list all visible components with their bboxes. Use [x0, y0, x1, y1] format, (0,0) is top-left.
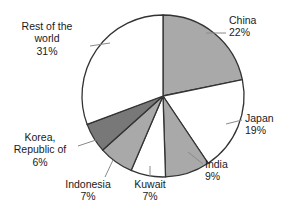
- pie-label-korea-name-line2: Republic of: [2, 143, 78, 155]
- pie-label-korea: Korea, Republic of 6%: [2, 131, 78, 168]
- pie-label-china-value: 22%: [229, 26, 256, 38]
- pie-label-indonesia-value: 7%: [57, 190, 119, 202]
- pie-label-india-name: India: [205, 158, 228, 170]
- pie-label-rest-of-the-world-name-line1: Rest of the: [4, 20, 90, 32]
- pie-label-japan-name: Japan: [245, 112, 274, 124]
- pie-label-kuwait-name: Kuwait: [124, 178, 176, 190]
- pie-label-korea-name-line1: Korea,: [2, 131, 78, 143]
- pie-label-korea-value: 6%: [2, 156, 78, 168]
- pie-label-kuwait: Kuwait 7%: [124, 178, 176, 203]
- pie-chart-figure: China 22% Japan 19% India 9% Kuwait 7% I…: [0, 0, 307, 222]
- pie-label-rest-of-the-world-name-line2: world: [4, 32, 90, 44]
- pie-label-china: China 22%: [229, 14, 256, 39]
- pie-label-kuwait-value: 7%: [124, 190, 176, 202]
- leader-line-indonesia: [105, 160, 113, 177]
- pie-label-china-name: China: [229, 14, 256, 26]
- pie-label-rest-of-the-world: Rest of the world 31%: [4, 20, 90, 57]
- pie-label-japan: Japan 19%: [245, 112, 274, 137]
- pie-label-japan-value: 19%: [245, 124, 274, 136]
- pie-label-indonesia-name: Indonesia: [57, 178, 119, 190]
- pie-label-rest-of-the-world-value: 31%: [4, 45, 90, 57]
- leader-line-korea: [78, 140, 96, 146]
- pie-label-india-value: 9%: [205, 170, 228, 182]
- pie-label-indonesia: Indonesia 7%: [57, 178, 119, 203]
- pie-label-india: India 9%: [205, 158, 228, 183]
